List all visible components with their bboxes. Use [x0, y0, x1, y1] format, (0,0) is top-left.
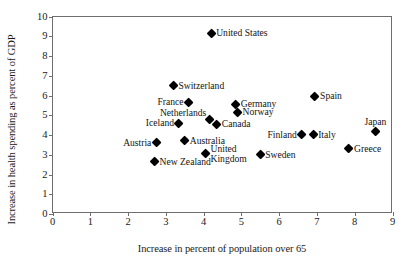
y-tick-mark — [49, 17, 53, 18]
y-tick-mark — [49, 175, 53, 176]
y-tick-label: 1 — [42, 189, 47, 200]
x-tick-label: 6 — [277, 217, 282, 228]
x-tick-label: 3 — [163, 217, 168, 228]
diamond-marker-icon — [297, 130, 307, 140]
x-tick-label: 1 — [88, 217, 93, 228]
diamond-marker-icon — [174, 118, 184, 128]
y-tick-label: 8 — [42, 51, 47, 62]
y-tick-mark — [49, 76, 53, 77]
x-tick-label: 2 — [125, 217, 130, 228]
x-tick-label: 9 — [390, 217, 395, 228]
y-tick-label: 0 — [42, 209, 47, 220]
y-tick-label: 5 — [42, 110, 47, 121]
y-tick-label: 9 — [42, 31, 47, 42]
data-point-label: United States — [216, 28, 267, 38]
x-tick-label: 7 — [314, 217, 319, 228]
data-point-label: Switzerland — [178, 81, 224, 91]
diamond-marker-icon — [310, 91, 320, 101]
diamond-marker-icon — [206, 28, 216, 38]
diamond-marker-icon — [149, 157, 159, 167]
diamond-marker-icon — [180, 136, 190, 146]
data-point-label: Iceland — [146, 118, 174, 128]
scatter-chart: Increase in health spending as percent o… — [0, 0, 405, 275]
diamond-marker-icon — [183, 97, 193, 107]
x-tick-label: 0 — [50, 217, 55, 228]
data-point-label: Norway — [243, 107, 274, 117]
y-tick-mark — [49, 155, 53, 156]
data-point-label: United Kingdom — [211, 144, 247, 164]
data-point-label: Japan — [365, 117, 387, 127]
diamond-marker-icon — [344, 144, 354, 154]
data-point-label: Spain — [320, 92, 342, 102]
y-tick-label: 6 — [42, 90, 47, 101]
x-tick-label: 8 — [352, 217, 357, 228]
diamond-marker-icon — [151, 138, 161, 148]
data-point-label: France — [157, 97, 183, 107]
y-tick-mark — [49, 115, 53, 116]
data-point-label: Sweden — [265, 150, 295, 160]
diamond-marker-icon — [308, 130, 318, 140]
diamond-marker-icon — [168, 81, 178, 91]
x-tick-label: 4 — [201, 217, 206, 228]
y-tick-mark — [49, 56, 53, 57]
data-point-label: Finland — [268, 130, 297, 140]
data-point-label: Canada — [222, 119, 251, 129]
y-tick-label: 2 — [42, 169, 47, 180]
y-tick-label: 4 — [42, 130, 47, 141]
diamond-marker-icon — [255, 150, 265, 160]
x-axis-title: Increase in percent of population over 6… — [52, 243, 392, 254]
data-point-label: Italy — [318, 130, 336, 140]
y-tick-mark — [49, 135, 53, 136]
plot-area: 012345678910 0123456789 United StatesSwi… — [52, 16, 392, 214]
x-tick-label: 5 — [239, 217, 244, 228]
data-point-label: Austria — [123, 138, 151, 148]
y-tick-mark — [49, 96, 53, 97]
diamond-marker-icon — [370, 127, 380, 137]
data-point-label: New Zealand — [160, 157, 211, 167]
y-tick-label: 3 — [42, 150, 47, 161]
y-tick-label: 10 — [37, 11, 48, 22]
data-point-label: Greece — [354, 144, 381, 154]
y-tick-mark — [49, 194, 53, 195]
y-tick-mark — [49, 36, 53, 37]
y-tick-label: 7 — [42, 71, 47, 82]
y-axis-title: Increase in health spending as percent o… — [0, 22, 22, 237]
